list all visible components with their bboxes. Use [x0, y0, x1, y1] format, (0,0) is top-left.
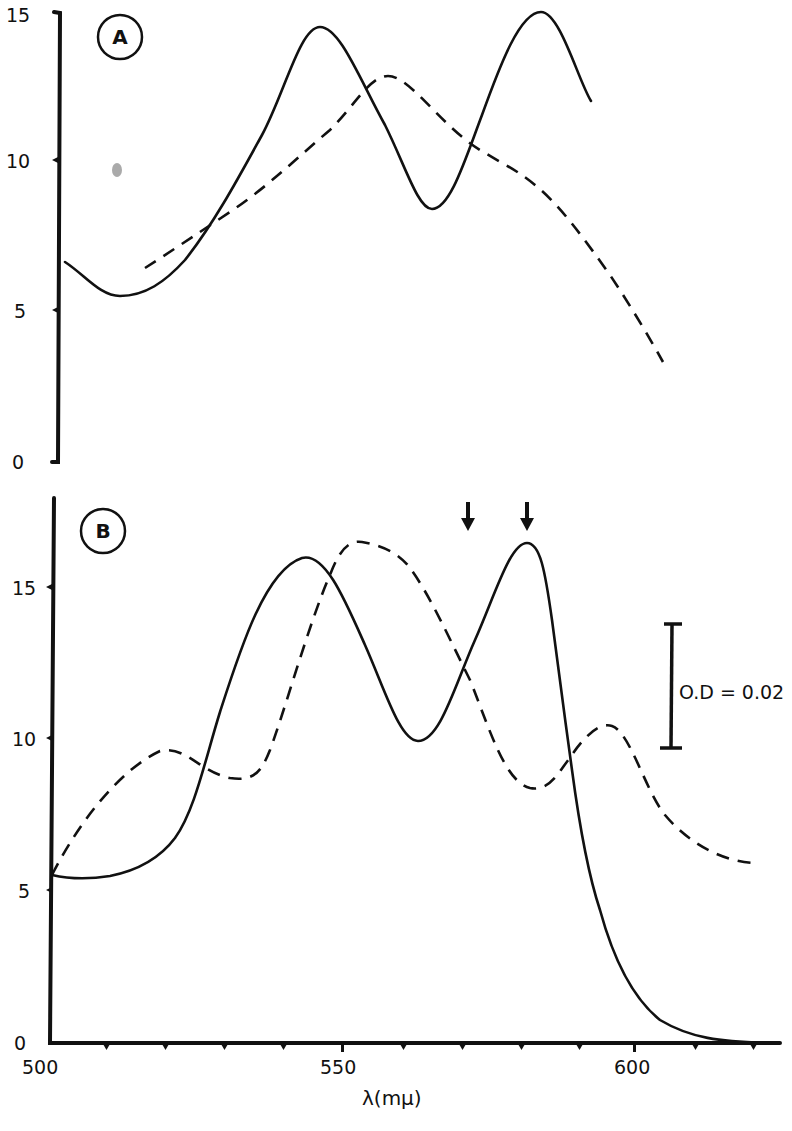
- panel-b: 15 10 5 0 500 550 600 λ(mμ) B: [12, 498, 784, 1110]
- panel-b-ytick-15: [46, 584, 52, 590]
- panel-a-solid-curve: [65, 12, 591, 296]
- panel-a-ytick-10: [52, 157, 58, 163]
- x-axis-label: λ(mμ): [362, 1086, 422, 1110]
- panel-b-ytick-5: [46, 887, 52, 893]
- panel-a: 15 10 5 0 A: [6, 4, 663, 473]
- panel-b-ytick-label-15: 15: [12, 577, 36, 599]
- x-tick-label-550: 550: [320, 1056, 356, 1078]
- panel-b-label: B: [95, 519, 110, 543]
- panel-a-label: A: [112, 25, 128, 49]
- panel-a-ytick-label-0: 0: [12, 451, 24, 473]
- x-tick-label-500: 500: [22, 1056, 58, 1078]
- scan-smudge: [112, 163, 122, 177]
- panel-b-solid-curve: [52, 543, 770, 1043]
- x-tick-label-600: 600: [614, 1056, 650, 1078]
- panel-b-ytick-label-5: 5: [18, 880, 30, 902]
- panel-a-ytick-label-10: 10: [6, 150, 30, 172]
- panel-a-ytick-label-5: 5: [14, 300, 26, 322]
- panel-a-y-axis: [52, 12, 60, 462]
- panel-a-ytick-5: [52, 307, 58, 313]
- spectra-figure: 15 10 5 0 A 15 10 5 0: [0, 0, 792, 1131]
- od-scale-bar: O.D = 0.02: [660, 624, 784, 748]
- panel-b-axes: [50, 498, 780, 1043]
- panel-b-dashed-curve: [52, 542, 755, 875]
- arrow-down-icon: [520, 502, 534, 531]
- panel-b-ytick-label-0: 0: [14, 1032, 26, 1054]
- scale-bar-label: O.D = 0.02: [679, 681, 784, 703]
- panel-a-dashed-curve: [145, 76, 663, 362]
- panel-a-ytick-label-15: 15: [6, 4, 30, 26]
- arrow-down-icon: [461, 502, 475, 531]
- panel-b-ytick-label-10: 10: [12, 728, 36, 750]
- panel-b-ytick-10: [46, 735, 52, 741]
